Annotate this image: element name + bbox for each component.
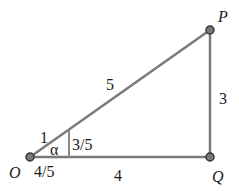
label-small-opposite: 3/5 (72, 136, 92, 153)
label-Q: Q (212, 168, 224, 185)
label-O: O (9, 164, 21, 181)
triangle-diagram: O P Q 5 3 4 1 3/5 4/5 α (0, 0, 239, 191)
label-small-hypotenuse: 1 (40, 129, 48, 146)
label-edge-PQ: 3 (219, 90, 227, 107)
point-Q (206, 153, 214, 161)
label-small-adjacent: 4/5 (34, 163, 54, 180)
label-edge-OQ: 4 (114, 167, 122, 184)
point-O (26, 153, 34, 161)
point-P (206, 26, 214, 34)
label-angle-alpha: α (50, 141, 59, 158)
label-P: P (217, 8, 228, 25)
edge-OP (30, 30, 210, 157)
label-edge-OP: 5 (106, 76, 114, 93)
